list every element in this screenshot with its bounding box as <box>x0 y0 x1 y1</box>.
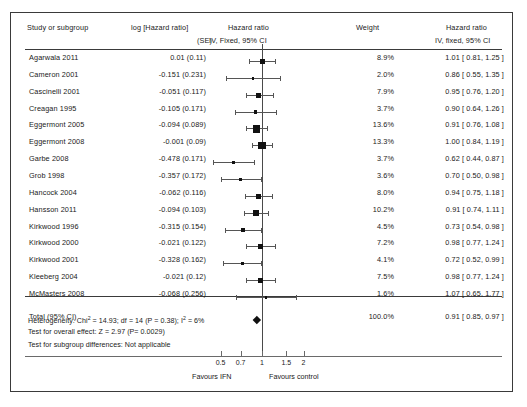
row-study-label: Creagan 1995 <box>29 104 76 113</box>
row-study-label: Eggermont 2008 <box>29 137 84 146</box>
row-hazard-ratio: 0.91 [ 0.76, 1.08 ] <box>445 120 504 129</box>
column-header-study: Study or subgroup <box>27 23 88 32</box>
row-study-label: Hancock 2004 <box>29 188 77 197</box>
row-weight: 4.5% <box>377 222 394 231</box>
row-log-hr-se: -0.478 (0.171) <box>159 154 206 163</box>
ci-upper-cap <box>261 228 262 233</box>
effect-estimate-marker <box>253 210 259 216</box>
ci-lower-cap <box>236 295 237 300</box>
subgroup-differences-statistic: Test for subgroup differences: Not appli… <box>28 341 171 349</box>
table-row: Agarwala 20110.01 (0.11)8.9%1.01 [ 0.81,… <box>11 53 514 70</box>
effect-estimate-marker <box>254 110 257 113</box>
ci-upper-cap <box>254 160 255 165</box>
ci-lower-cap <box>246 126 247 131</box>
ci-upper-cap <box>275 278 276 283</box>
row-hazard-ratio: 1.01 [ 0.81, 1.25 ] <box>445 53 504 62</box>
row-study-label: McMasters 2008 <box>29 289 84 298</box>
effect-estimate-marker <box>258 142 265 149</box>
row-weight: 3.6% <box>377 171 394 180</box>
row-study-label: Agarwala 2011 <box>29 53 78 62</box>
row-log-hr-se: 0.01 (0.11) <box>170 53 206 62</box>
table-row: Eggermont 2005-0.094 (0.089)13.6%0.91 [ … <box>11 120 514 137</box>
summary-diamond <box>252 316 260 324</box>
effect-estimate-marker <box>253 125 260 132</box>
column-header-weight: Weight <box>356 23 379 32</box>
x-axis-tick-label: 1 <box>249 359 275 366</box>
table-row: Eggermont 2008-0.001 (0.09)13.3%1.00 [ 0… <box>11 137 514 154</box>
ci-upper-cap <box>273 93 274 98</box>
table-row: Creagan 1995-0.105 (0.171)3.7%0.90 [ 0.6… <box>11 104 514 121</box>
favours-right-label: Favours control <box>269 372 319 381</box>
effect-estimate-marker <box>239 178 242 181</box>
effect-estimate-marker <box>258 278 263 283</box>
table-row: Kirkwood 1996-0.315 (0.154)4.5%0.73 [ 0.… <box>11 222 514 239</box>
ci-lower-cap <box>246 93 247 98</box>
row-weight: 1.6% <box>377 289 394 298</box>
row-log-hr-se: -0.357 (0.172) <box>159 171 206 180</box>
ci-upper-cap <box>280 76 281 81</box>
forest-plot-canvas: Study or subgroup log [Hazard ratio] (SE… <box>11 13 514 393</box>
favours-left-label: Favours IFN <box>192 372 232 381</box>
row-weight: 8.9% <box>377 53 394 62</box>
header-divider <box>25 49 502 50</box>
ci-upper-cap <box>268 211 269 216</box>
ci-lower-cap <box>246 244 247 249</box>
ci-upper-cap <box>276 110 277 115</box>
row-log-hr-se: -0.105 (0.171) <box>159 104 206 113</box>
x-axis-tick <box>262 351 263 356</box>
table-row: Kirkwood 2001-0.328 (0.162)4.1%0.72 [ 0.… <box>11 255 514 272</box>
row-log-hr-se: -0.021 (0.122) <box>159 238 206 247</box>
row-study-label: Kirkwood 2000 <box>29 238 79 247</box>
ci-upper-cap <box>261 177 262 182</box>
row-log-hr-se: -0.315 (0.154) <box>159 222 206 231</box>
row-study-label: Cascinelli 2001 <box>29 87 80 96</box>
row-weight: 2.0% <box>377 70 394 79</box>
x-axis-tick-label: 2 <box>291 359 317 366</box>
table-row: Kirkwood 2000-0.021 (0.122)7.2%0.98 [ 0.… <box>11 238 514 255</box>
x-axis-line <box>25 356 502 357</box>
row-hazard-ratio: 0.70 [ 0.50, 0.98 ] <box>445 171 504 180</box>
row-hazard-ratio: 0.91 [ 0.74, 1.11 ] <box>446 205 504 214</box>
ci-upper-cap <box>267 126 268 131</box>
ci-lower-cap <box>221 177 222 182</box>
row-hazard-ratio: 1.00 [ 0.84, 1.19 ] <box>445 137 504 146</box>
ci-lower-cap <box>223 261 224 266</box>
row-hazard-ratio: 0.90 [ 0.64, 1.26 ] <box>445 104 504 113</box>
ci-lower-cap <box>246 278 247 283</box>
effect-estimate-marker <box>260 59 265 64</box>
row-weight: 3.7% <box>377 154 394 163</box>
heterogeneity-prefix: Heterogeneity: Chi <box>28 317 88 325</box>
column-header-hazard-ratio-value-method: IV, fixed, 95% CI <box>435 36 490 45</box>
row-hazard-ratio: 0.86 [ 0.55, 1.35 ] <box>445 70 504 79</box>
row-weight: 7.9% <box>377 87 394 96</box>
row-hazard-ratio: 0.95 [ 0.76, 1.20 ] <box>445 87 504 96</box>
ci-lower-cap <box>226 76 227 81</box>
table-row: Garbe 2008-0.478 (0.171)3.7%0.62 [ 0.44,… <box>11 154 514 171</box>
row-study-label: Kirkwood 1996 <box>29 222 79 231</box>
effect-estimate-marker <box>265 296 267 298</box>
ci-upper-cap <box>272 194 273 199</box>
table-row: Hansson 2011-0.094 (0.103)10.2%0.91 [ 0.… <box>11 205 514 222</box>
row-hazard-ratio: 0.98 [ 0.77, 1.24 ] <box>445 238 504 247</box>
heterogeneity-mid: = 14.93; df = 14 (P = 0.38); I <box>91 317 183 325</box>
row-weight: 7.2% <box>377 238 394 247</box>
row-log-hr-se: -0.068 (0.256) <box>159 289 206 298</box>
table-row: Kleeberg 2004-0.021 (0.12)7.5%0.98 [ 0.7… <box>11 272 514 289</box>
heterogeneity-suffix: = 6% <box>186 317 205 325</box>
ci-lower-cap <box>225 228 226 233</box>
effect-estimate-marker <box>241 228 245 232</box>
total-hazard-ratio: 0.91 [ 0.85, 0.97 ] <box>445 312 504 321</box>
x-axis-tick <box>221 351 222 356</box>
effect-estimate-marker <box>232 161 235 164</box>
ci-lower-cap <box>235 110 236 115</box>
row-log-hr-se: -0.094 (0.103) <box>159 205 206 214</box>
forest-plot-frame: Study or subgroup log [Hazard ratio] (SE… <box>10 12 513 392</box>
row-study-label: Garbe 2008 <box>29 154 69 163</box>
table-row: McMasters 2008-0.068 (0.256)1.6%1.07 [ 0… <box>11 289 514 306</box>
row-study-label: Kleeberg 2004 <box>29 272 78 281</box>
row-study-label: Eggermont 2005 <box>29 120 84 129</box>
row-study-label: Grob 1998 <box>29 171 64 180</box>
row-log-hr-se: -0.051 (0.117) <box>159 87 206 96</box>
row-study-label: Kirkwood 2001 <box>29 255 79 264</box>
row-weight: 4.1% <box>377 255 394 264</box>
